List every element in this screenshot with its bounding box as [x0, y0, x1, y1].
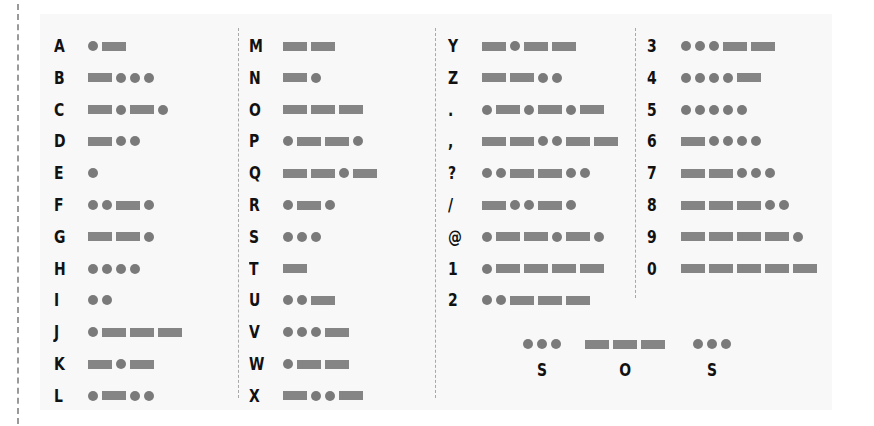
dot-icon — [737, 168, 747, 178]
dot-icon — [537, 339, 547, 349]
character-label: U — [249, 288, 277, 312]
morse-entry: Y — [448, 34, 576, 58]
dot-icon — [297, 232, 307, 242]
morse-entry: 3 — [647, 34, 775, 58]
character-label: @ — [448, 225, 476, 249]
morse-chart-panel: ABCDEFGHIJKL MNOPQRSTUVWX YZ.,?/@12 3456… — [40, 14, 832, 410]
dash-icon — [751, 42, 775, 51]
dot-icon — [325, 391, 335, 401]
dash-icon — [283, 42, 307, 51]
character-label: L — [54, 384, 82, 408]
dot-icon — [144, 200, 154, 210]
sos-letter: O — [619, 360, 631, 380]
dash-icon — [130, 105, 154, 114]
morse-code-sequence — [681, 264, 817, 273]
dash-icon — [538, 105, 562, 114]
morse-entry: ? — [448, 161, 590, 185]
morse-entry: M — [249, 34, 335, 58]
morse-code-sequence — [283, 73, 321, 83]
dot-icon — [510, 41, 520, 51]
morse-code-sequence — [88, 359, 154, 369]
character-label: 2 — [448, 288, 476, 312]
dash-icon — [510, 296, 534, 305]
character-label: Q — [249, 161, 277, 185]
morse-entry: E — [54, 161, 98, 185]
dot-icon — [283, 359, 293, 369]
dot-icon — [130, 391, 140, 401]
column-divider-2 — [435, 28, 436, 398]
dot-icon — [283, 136, 293, 146]
dot-icon — [116, 359, 126, 369]
morse-entry: 6 — [647, 129, 761, 153]
dot-icon — [707, 339, 717, 349]
dot-icon — [695, 41, 705, 51]
morse-code-sequence — [88, 41, 126, 51]
morse-entry: N — [249, 66, 321, 90]
dot-icon — [723, 73, 733, 83]
morse-entry: P — [249, 129, 363, 153]
character-label: J — [54, 320, 82, 344]
dash-icon — [524, 232, 548, 241]
dash-icon — [158, 328, 182, 337]
dash-icon — [130, 328, 154, 337]
dash-icon — [681, 232, 705, 241]
morse-entry: . — [448, 98, 604, 122]
dash-icon — [297, 137, 321, 146]
character-label: E — [54, 161, 82, 185]
dash-icon — [102, 42, 126, 51]
dot-icon — [311, 232, 321, 242]
morse-entry: @ — [448, 225, 604, 249]
dot-icon — [297, 327, 307, 337]
character-label: I — [54, 288, 82, 312]
dash-icon — [580, 105, 604, 114]
morse-code-sequence — [283, 359, 349, 369]
dash-icon — [566, 137, 590, 146]
dot-icon — [709, 105, 719, 115]
dash-icon — [681, 169, 705, 178]
dash-icon — [737, 73, 761, 82]
character-label: C — [54, 98, 82, 122]
dash-icon — [102, 328, 126, 337]
morse-code-sequence — [585, 336, 665, 352]
morse-code-sequence — [681, 73, 761, 83]
morse-entry: 7 — [647, 161, 775, 185]
character-label: / — [448, 193, 476, 217]
dash-icon — [297, 201, 321, 210]
dash-icon — [482, 73, 506, 82]
dash-icon — [681, 264, 705, 273]
dash-icon — [130, 360, 154, 369]
dash-icon — [566, 296, 590, 305]
dot-icon — [283, 295, 293, 305]
dot-icon — [524, 105, 534, 115]
dash-icon — [585, 340, 609, 349]
morse-code-sequence — [482, 200, 576, 210]
dash-icon — [524, 42, 548, 51]
dash-icon — [496, 105, 520, 114]
dash-icon — [283, 264, 307, 273]
dot-icon — [737, 105, 747, 115]
morse-entry: Z — [448, 66, 562, 90]
dot-icon — [538, 136, 548, 146]
dot-icon — [311, 73, 321, 83]
dot-icon — [311, 391, 321, 401]
morse-code-sequence — [88, 200, 154, 210]
morse-code-sequence — [482, 232, 604, 242]
sos-letter: S — [707, 360, 717, 380]
morse-code-sequence — [482, 41, 576, 51]
morse-entry: 5 — [647, 98, 747, 122]
dash-icon — [88, 360, 112, 369]
morse-entry: 9 — [647, 225, 803, 249]
morse-code-sequence — [88, 295, 112, 305]
dot-icon — [283, 327, 293, 337]
dash-icon — [116, 201, 140, 210]
morse-code-sequence — [482, 168, 590, 178]
dot-icon — [116, 136, 126, 146]
character-label: S — [249, 225, 277, 249]
dash-icon — [353, 169, 377, 178]
morse-entry: 8 — [647, 193, 789, 217]
dash-icon — [496, 232, 520, 241]
character-label: 9 — [647, 225, 675, 249]
character-label: X — [249, 384, 277, 408]
left-margin-rule — [17, 4, 19, 424]
sos-group: O — [585, 336, 665, 380]
